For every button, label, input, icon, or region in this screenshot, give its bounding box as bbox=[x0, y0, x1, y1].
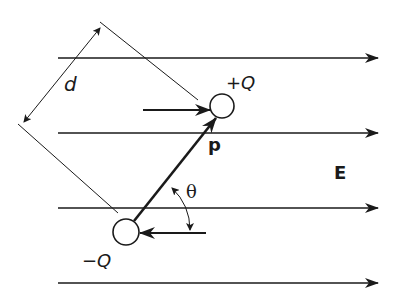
dipole-diagram: d +Q −Q p E θ bbox=[0, 0, 402, 305]
distance-arrow bbox=[24, 28, 100, 122]
negative-charge-label: −Q bbox=[82, 252, 111, 270]
field-label: E bbox=[334, 164, 346, 182]
distance-label: d bbox=[64, 74, 77, 94]
negative-charge bbox=[113, 219, 139, 245]
distance-dimension bbox=[18, 22, 198, 213]
extension-line-bottom bbox=[18, 124, 118, 213]
diagram-graphics bbox=[0, 0, 402, 305]
positive-charge-label: +Q bbox=[226, 74, 255, 92]
angle-label: θ bbox=[186, 183, 197, 201]
dipole-moment-label: p bbox=[208, 136, 221, 154]
positive-charge bbox=[210, 94, 234, 118]
extension-line-top bbox=[100, 22, 198, 100]
